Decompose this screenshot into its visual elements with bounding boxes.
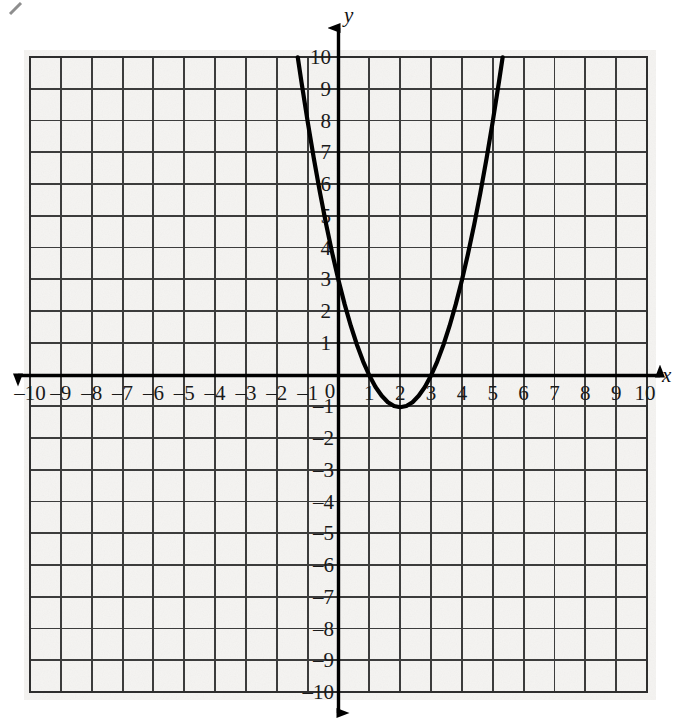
y-tick-label: 2 — [321, 299, 332, 323]
y-tick-label: 1 — [321, 331, 332, 355]
y-tick-label: 9 — [321, 77, 332, 101]
y-tick-label: –2 — [312, 426, 334, 450]
x-tick-label: 9 — [611, 381, 622, 405]
x-tick-label: –8 — [80, 381, 102, 405]
x-tick-label: –4 — [204, 381, 227, 405]
x-tick-label: 4 — [457, 381, 468, 405]
coordinate-plane-chart: x y –10 –9 –8 –7 –6 –5 –4 –3 –2 –1 1 2 3… — [0, 0, 692, 721]
y-axis-label: y — [342, 3, 354, 27]
x-tick-label: –9 — [49, 381, 71, 405]
x-tick-label: 8 — [580, 381, 591, 405]
y-tick-label: 8 — [321, 109, 332, 133]
y-tick-label: –9 — [312, 648, 334, 672]
x-tick-label: 6 — [518, 381, 529, 405]
graph-figure: x y –10 –9 –8 –7 –6 –5 –4 –3 –2 –1 1 2 3… — [0, 0, 692, 721]
y-tick-label: –1 — [312, 394, 334, 418]
x-tick-label: –6 — [142, 381, 164, 405]
y-tick-label: 10 — [310, 45, 331, 69]
y-tick-label: –4 — [312, 490, 335, 514]
y-tick-label: –3 — [312, 458, 334, 482]
x-tick-label: –7 — [111, 381, 133, 405]
x-tick-label: 2 — [395, 381, 406, 405]
x-tick-label: –2 — [265, 381, 287, 405]
x-tick-label: –5 — [173, 381, 195, 405]
x-tick-label: –10 — [13, 381, 46, 405]
y-tick-label: –6 — [312, 553, 334, 577]
x-tick-label: 5 — [488, 381, 499, 405]
y-tick-label: –8 — [312, 617, 334, 641]
x-tick-label: –3 — [234, 381, 256, 405]
x-axis-label: x — [661, 363, 672, 387]
y-tick-label: –10 — [302, 680, 335, 704]
x-tick-label: 7 — [549, 381, 560, 405]
y-tick-label: –7 — [312, 585, 334, 609]
y-tick-label: 7 — [321, 140, 332, 164]
x-tick-label: 10 — [635, 381, 656, 405]
y-tick-label: 3 — [321, 267, 332, 291]
y-tick-label: –5 — [312, 521, 334, 545]
scan-artifact — [8, 2, 24, 16]
